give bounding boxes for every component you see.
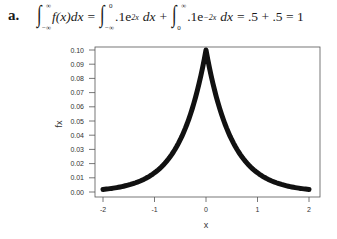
y-tick-label: 0.04: [70, 132, 84, 139]
x-axis: -2-1012: [100, 197, 311, 213]
y-tick-label: 0.00: [70, 189, 84, 196]
y-tick-label: 0.06: [70, 103, 84, 110]
y-tick-label: 0.02: [70, 160, 84, 167]
y-tick-label: 0.01: [70, 174, 84, 181]
y-tick-label: 0.10: [70, 47, 84, 54]
y-axis: 0.000.010.020.030.040.050.060.070.080.09…: [70, 47, 95, 196]
density-curve: [103, 50, 309, 189]
y-axis-title: fx: [54, 120, 64, 128]
density-plot: 0.000.010.020.030.040.050.060.070.080.09…: [0, 0, 337, 239]
x-tick-label: -1: [151, 206, 157, 213]
y-tick-label: 0.08: [70, 75, 84, 82]
y-tick-label: 0.05: [70, 118, 84, 125]
x-tick-label: 0: [204, 206, 208, 213]
y-tick-label: 0.03: [70, 146, 84, 153]
x-tick-label: 2: [307, 206, 311, 213]
y-tick-label: 0.07: [70, 89, 84, 96]
x-tick-label: -2: [100, 206, 106, 213]
x-axis-title: x: [204, 220, 209, 230]
x-tick-label: 1: [256, 206, 260, 213]
y-tick-label: 0.09: [70, 61, 84, 68]
